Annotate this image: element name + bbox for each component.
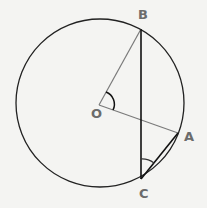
circle-diagram: B O A C xyxy=(0,0,207,208)
label-c: C xyxy=(139,186,149,201)
label-o: O xyxy=(91,106,102,121)
chord-ca xyxy=(141,133,178,179)
angle-arc-bca xyxy=(141,159,154,163)
radius-oa xyxy=(99,105,178,133)
label-a: A xyxy=(184,129,194,144)
label-b: B xyxy=(138,7,148,22)
radius-ob xyxy=(99,29,141,105)
